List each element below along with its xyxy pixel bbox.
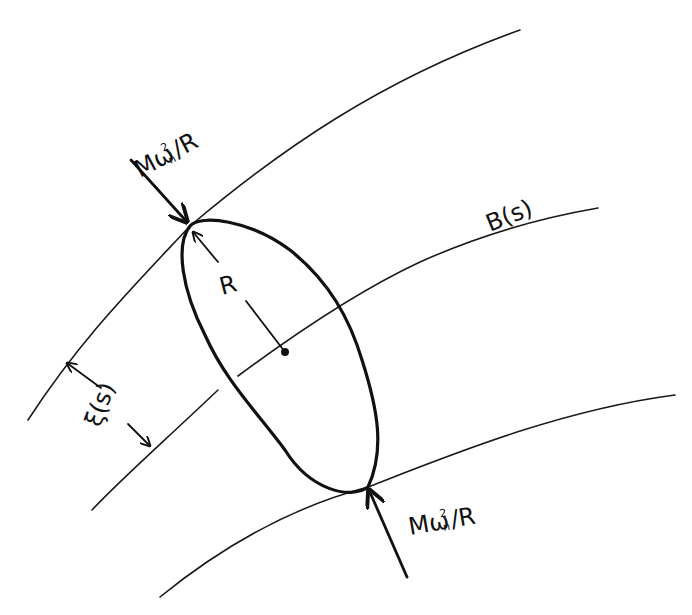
svg-text:B(s): B(s) xyxy=(482,194,537,238)
diagram-canvas: Mω2n/R Mω2n/R R B(s) ξ(s) xyxy=(0,0,692,615)
body-ellipse xyxy=(182,220,378,492)
lower-boundary-curve xyxy=(160,395,675,597)
half-width-arrow-lower xyxy=(128,424,150,446)
upper-boundary-curve xyxy=(28,30,520,420)
centerline-label: B(s) xyxy=(482,194,537,238)
svg-text:ξ(s): ξ(s) xyxy=(79,379,121,431)
svg-text:Mω2n/R: Mω2n/R xyxy=(406,502,477,541)
centerline-curve-upper-segment xyxy=(238,208,598,376)
svg-text:Mω2n/R: Mω2n/R xyxy=(130,127,203,183)
force-label-top: Mω2n/R xyxy=(130,127,203,183)
center-point xyxy=(281,348,289,356)
radius-label: R xyxy=(216,269,239,300)
force-label-bottom: Mω2n/R xyxy=(406,502,477,541)
half-width-label: ξ(s) xyxy=(79,379,121,431)
svg-text:R: R xyxy=(216,269,239,300)
radius-tick-top xyxy=(193,232,218,262)
radius-line xyxy=(246,301,285,352)
force-arrow-bottom xyxy=(369,490,407,577)
